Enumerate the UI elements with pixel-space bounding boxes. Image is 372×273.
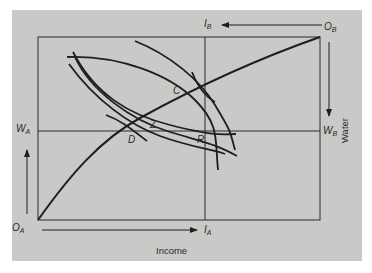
tangent-stroke-c bbox=[192, 72, 215, 102]
point-r-label: R bbox=[197, 135, 204, 145]
water-axis-title: Water bbox=[340, 118, 350, 143]
income-b-label: IB bbox=[204, 19, 211, 30]
income-axis-title: Income bbox=[156, 246, 187, 256]
indifference-curve-a-2 bbox=[75, 57, 237, 156]
water-b-label: WB bbox=[323, 126, 337, 137]
income-a-label: IA bbox=[204, 225, 211, 236]
origin-b-label: OB bbox=[324, 22, 336, 33]
indifference-curve-b-1 bbox=[67, 57, 218, 170]
edgeworth-box-diagram bbox=[0, 0, 372, 273]
point-c-label: C bbox=[173, 86, 180, 96]
water-a-label: WA bbox=[16, 124, 30, 135]
point-z-label: Z bbox=[150, 120, 156, 130]
origin-a-label: OA bbox=[12, 223, 24, 234]
point-d-label: D bbox=[128, 135, 135, 145]
